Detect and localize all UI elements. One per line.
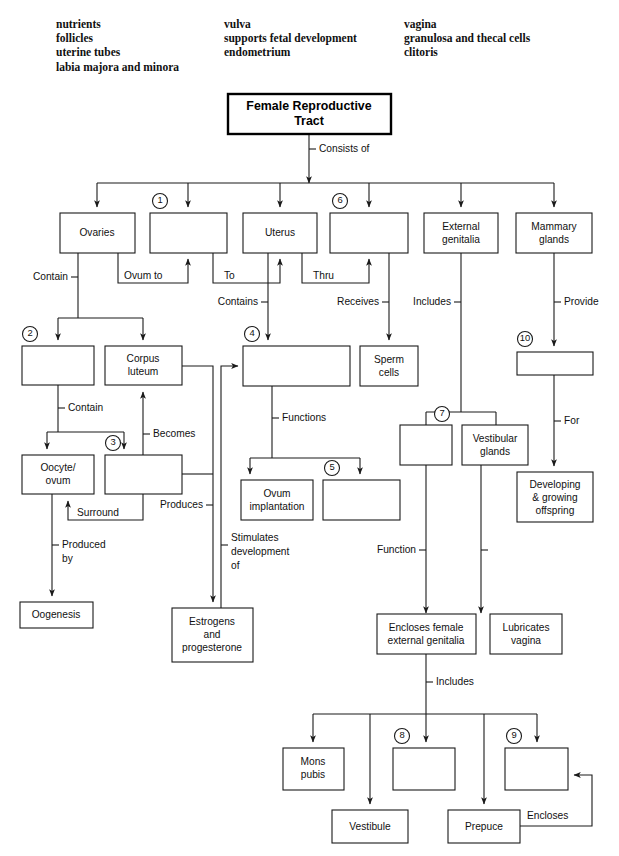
badge-7: 7 xyxy=(435,407,450,422)
node-sperm-cells[interactable]: Sperm cells xyxy=(360,346,418,386)
edge-label-contains: Contains xyxy=(218,296,258,307)
edge-receives: Receives xyxy=(337,253,389,340)
node-blank-7[interactable] xyxy=(400,425,452,465)
node-label-2: cells xyxy=(379,367,399,378)
node-label-3: offspring xyxy=(536,505,575,516)
node-label: External xyxy=(442,221,479,232)
edge-label-consists-of: Consists of xyxy=(319,143,370,154)
edge-label-stimulates-2: development xyxy=(231,546,290,557)
edge-functions: Functions xyxy=(250,386,360,474)
edge-label-contain-b: Contain xyxy=(68,402,103,413)
node-corpus-luteum[interactable]: Corpus luteum xyxy=(105,346,182,385)
edge-to: To xyxy=(213,253,280,283)
node-label: Ovum xyxy=(263,488,290,499)
node-blank-10[interactable] xyxy=(517,352,593,375)
node-oogenesis[interactable]: Oogenesis xyxy=(20,602,93,628)
node-blank-8[interactable] xyxy=(393,748,455,790)
badge-label: 5 xyxy=(329,461,334,472)
node-label-2: glands xyxy=(480,446,510,457)
badge-label: 8 xyxy=(399,729,404,740)
node-blank-9[interactable] xyxy=(505,748,568,790)
edge-label-function: Function xyxy=(377,544,416,555)
badge-1: 1 xyxy=(153,194,168,209)
edge-label-stimulates-1: Stimulates xyxy=(231,532,279,543)
edge-label-contain-a: Contain xyxy=(33,271,68,282)
badge-9: 9 xyxy=(507,729,522,744)
edge-label-produces: Produces xyxy=(160,499,203,510)
badge-label: 3 xyxy=(110,436,115,447)
edge-label-provide: Provide xyxy=(564,296,599,307)
edge-label-for: For xyxy=(564,415,580,426)
node-blank-6[interactable] xyxy=(330,213,408,253)
node-ovaries[interactable]: Ovaries xyxy=(60,213,135,253)
badge-3: 3 xyxy=(106,436,121,451)
node-blank-4[interactable] xyxy=(243,346,350,386)
node-label-3: progesterone xyxy=(182,642,242,653)
edge-label-to: To xyxy=(224,270,235,281)
node-external-genitalia[interactable]: External genitalia xyxy=(424,213,498,253)
node-label: Encloses female xyxy=(389,622,464,633)
node-lubricates-vagina[interactable]: Lubricates vagina xyxy=(490,614,562,654)
node-label-2: Tract xyxy=(294,114,324,128)
edge-label-includes-bottom: Includes xyxy=(436,676,474,687)
node-female-reproductive-tract[interactable]: Female Reproductive Tract xyxy=(228,94,391,134)
edge-label-ovum-to: Ovum to xyxy=(124,270,163,281)
edge-surround: Surround xyxy=(68,494,143,520)
node-label: Female Reproductive xyxy=(246,99,371,113)
concept-map: Consists of Contain Ovum to To Thru Co xyxy=(0,0,619,856)
badge-label: 4 xyxy=(249,327,254,338)
edge-ovum-to: Ovum to xyxy=(118,252,188,283)
badge-label: 1 xyxy=(157,194,162,205)
node-mammary-glands[interactable]: Mammary glands xyxy=(516,213,592,253)
node-label: Uterus xyxy=(265,227,295,238)
edge-label-encloses: Encloses xyxy=(527,810,568,821)
badge-label: 9 xyxy=(511,729,516,740)
node-ovum-implantation[interactable]: Ovum implantation xyxy=(241,480,313,520)
node-encloses-female-external-genitalia[interactable]: Encloses female external genitalia xyxy=(377,614,476,654)
edge-becomes: Becomes xyxy=(143,392,195,455)
node-label-2: vagina xyxy=(511,635,541,646)
badge-label: 10 xyxy=(520,332,530,343)
node-label-2: & growing xyxy=(532,492,578,503)
node-label: Estrogens xyxy=(189,616,235,627)
badge-label: 2 xyxy=(27,327,32,338)
edge-for: For xyxy=(554,375,580,466)
node-label-2: genitalia xyxy=(442,234,480,245)
badge-4: 4 xyxy=(245,327,260,342)
node-blank-2[interactable] xyxy=(22,346,94,385)
edge-label-stimulates-3: of xyxy=(231,560,240,571)
node-label: Oogenesis xyxy=(32,609,81,620)
node-oocyte-ovum[interactable]: Oocyte/ ovum xyxy=(22,455,94,494)
node-vestibular-glands[interactable]: Vestibular glands xyxy=(462,425,528,465)
node-label-2: and xyxy=(204,629,221,640)
edge-contain-a: Contain xyxy=(33,252,143,340)
node-label-2: external genitalia xyxy=(387,635,464,646)
edge-includes-top: Includes xyxy=(413,253,496,432)
edge-label-surround: Surround xyxy=(77,507,119,518)
edge-consists-of: Consists of xyxy=(309,134,370,183)
node-mons-pubis[interactable]: Mons pubis xyxy=(283,748,344,790)
node-vestibule[interactable]: Vestibule xyxy=(332,810,408,843)
node-blank-3[interactable] xyxy=(105,455,182,494)
badge-6: 6 xyxy=(333,194,348,209)
node-label-2: luteum xyxy=(128,366,159,377)
badge-8: 8 xyxy=(395,729,410,744)
edge-provide: Provide xyxy=(554,253,599,346)
edge-label-includes-top: Includes xyxy=(413,296,451,307)
edge-label-produced-by-1: Produced xyxy=(62,539,106,550)
badge-label: 7 xyxy=(439,407,444,418)
node-label: Corpus xyxy=(127,353,160,364)
node-blank-1[interactable] xyxy=(150,213,227,253)
node-uterus[interactable]: Uterus xyxy=(243,213,317,253)
node-estrogens-progesterone[interactable]: Estrogens and progesterone xyxy=(172,608,253,662)
edge-label-functions: Functions xyxy=(282,412,326,423)
badge-label: 6 xyxy=(337,194,342,205)
node-label-2: implantation xyxy=(250,501,305,512)
node-developing-offspring[interactable]: Developing & growing offspring xyxy=(517,472,593,522)
node-label: Sperm xyxy=(374,354,404,365)
node-prepuce[interactable]: Prepuce xyxy=(448,810,520,843)
node-blank-5[interactable] xyxy=(323,480,400,520)
node-label: Oocyte/ xyxy=(40,462,75,473)
node-label: Mons xyxy=(301,756,326,767)
badge-5: 5 xyxy=(325,461,340,476)
